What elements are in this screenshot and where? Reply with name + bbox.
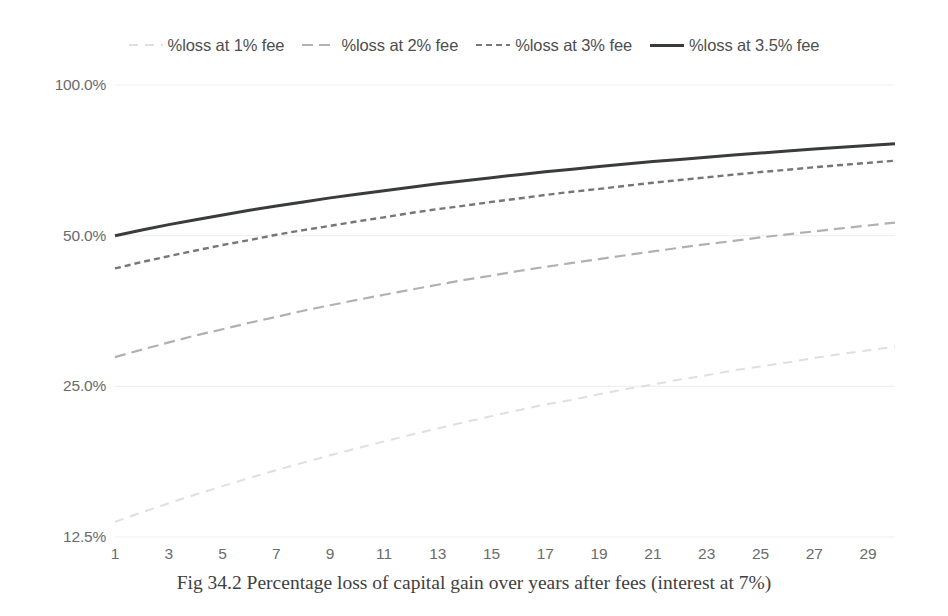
series-lines [115, 144, 895, 522]
legend-item-35pct[interactable]: %loss at 3.5% fee [650, 36, 819, 55]
plot-area [115, 85, 895, 537]
x-tick-label: 3 [164, 545, 173, 563]
legend-label-3pct: %loss at 3% fee [515, 36, 632, 55]
legend-item-2pct[interactable]: %loss at 2% fee [302, 36, 458, 55]
legend-label-2pct: %loss at 2% fee [341, 36, 458, 55]
legend-label-1pct: %loss at 1% fee [168, 36, 285, 55]
x-tick-label: 23 [698, 545, 715, 563]
plot-svg [115, 85, 895, 537]
series-line-3 [115, 144, 895, 236]
legend-label-35pct: %loss at 3.5% fee [689, 36, 819, 55]
y-tick-label: 12.5% [6, 528, 106, 546]
x-tick-label: 1 [111, 545, 120, 563]
series-line-0 [115, 347, 895, 522]
x-tick-label: 15 [483, 545, 500, 563]
figure-caption: Fig 34.2 Percentage loss of capital gain… [0, 572, 948, 594]
chart-legend: %loss at 1% fee %loss at 2% fee %loss at… [0, 30, 948, 60]
x-tick-label: 29 [859, 545, 876, 563]
legend-item-3pct[interactable]: %loss at 3% fee [476, 36, 632, 55]
legend-item-1pct[interactable]: %loss at 1% fee [129, 36, 285, 55]
y-tick-label: 50.0% [6, 227, 106, 245]
x-tick-label: 17 [537, 545, 554, 563]
x-tick-label: 9 [326, 545, 335, 563]
x-tick-label: 5 [218, 545, 227, 563]
x-tick-label: 25 [752, 545, 769, 563]
series-line-1 [115, 223, 895, 358]
x-tick-label: 21 [644, 545, 661, 563]
figure-container: %loss at 1% fee %loss at 2% fee %loss at… [0, 0, 948, 616]
x-tick-label: 19 [591, 545, 608, 563]
y-tick-label: 25.0% [6, 377, 106, 395]
x-tick-label: 7 [272, 545, 281, 563]
x-tick-label: 11 [376, 545, 392, 563]
x-tick-label: 27 [806, 545, 823, 563]
x-tick-label: 13 [429, 545, 446, 563]
x-axis: 1357911131517192123252729 [115, 545, 895, 569]
y-tick-label: 100.0% [6, 76, 106, 94]
y-axis: 100.0%50.0%25.0%12.5% [0, 0, 106, 616]
